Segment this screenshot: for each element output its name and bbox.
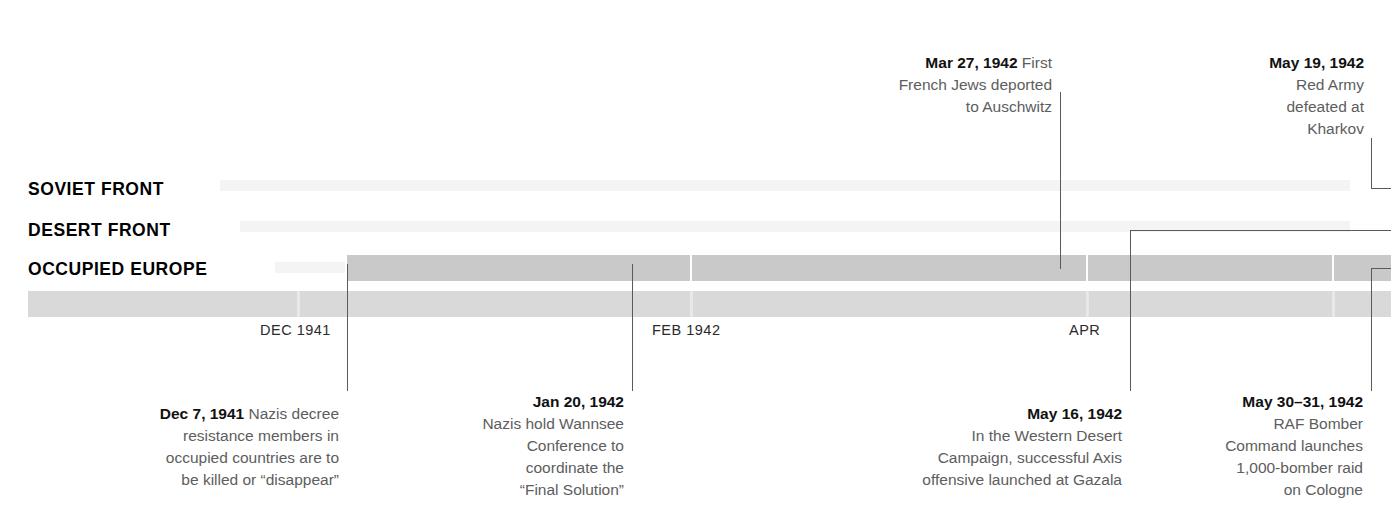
leader-line-dec-7-1941 xyxy=(347,264,348,391)
leader-line-desert-front-horizontal xyxy=(1130,230,1391,231)
annotation-text: Red Army defeated at Kharkov xyxy=(1286,76,1364,137)
annotation-date: Jan 20, 1942 xyxy=(533,393,624,410)
annotation-date: May 19, 1942 xyxy=(1269,54,1364,71)
annotation-text: Nazis hold Wannsee Conference to coordin… xyxy=(482,415,624,498)
annotation-text: In the Western Desert Campaign, successf… xyxy=(922,427,1122,488)
leader-line-mar-27-1942 xyxy=(1060,92,1061,269)
annotation-date: May 30–31, 1942 xyxy=(1242,393,1363,410)
row-label-occupied-europe: OCCUPIED EUROPE xyxy=(28,259,207,280)
axis-band-divider xyxy=(690,291,693,317)
annotation-date: May 16, 1942 xyxy=(1027,405,1122,422)
axis-tick-dec-1941: DEC 1941 xyxy=(260,322,331,338)
annotation-may-30-31-1942: May 30–31, 1942 RAF Bomber Command launc… xyxy=(1180,369,1363,501)
band-segment-divider xyxy=(690,255,692,281)
annotation-mar-27-1942: Mar 27, 1942 First French Jews deported … xyxy=(830,30,1052,118)
band-segment-divider xyxy=(1332,255,1334,281)
annotation-date: Mar 27, 1942 xyxy=(925,54,1017,71)
leader-line-may-30-31-1942 xyxy=(1371,268,1372,391)
axis-band-divider xyxy=(297,291,300,317)
leader-line-may-30-31-1942-horizontal xyxy=(1371,268,1391,269)
annotation-text: RAF Bomber Command launches 1,000-bomber… xyxy=(1225,415,1363,498)
timeline-figure: SOVIET FRONT DESERT FRONT OCCUPIED EUROP… xyxy=(0,0,1391,515)
leader-line-may-19-1942-horizontal xyxy=(1371,188,1391,189)
ghost-stroke xyxy=(275,262,345,273)
annotation-date: Dec 7, 1941 xyxy=(160,405,244,422)
axis-tick-apr-1942: APR xyxy=(1069,322,1100,338)
axis-band xyxy=(28,291,1391,317)
annotation-may-19-1942: May 19, 1942 Red Army defeated at Kharko… xyxy=(1170,30,1364,140)
band-segment-divider xyxy=(1086,255,1088,281)
axis-band-divider xyxy=(1332,291,1335,317)
leader-line-jan-20-1942 xyxy=(632,264,633,391)
row-label-desert-front: DESERT FRONT xyxy=(28,220,171,241)
ghost-stroke xyxy=(220,180,1350,191)
axis-tick-feb-1942: FEB 1942 xyxy=(652,322,721,338)
annotation-may-16-1942: May 16, 1942 In the Western Desert Campa… xyxy=(860,381,1122,491)
leader-line-may-19-1942-vertical xyxy=(1371,138,1372,188)
annotation-jan-20-1942: Jan 20, 1942 Nazis hold Wannsee Conferen… xyxy=(400,369,624,501)
annotation-dec-7-1941: Dec 7, 1941 Nazis decree resistance memb… xyxy=(100,381,339,491)
leader-line-may-16-1942 xyxy=(1130,230,1131,391)
band-occupied-europe xyxy=(347,255,1391,281)
axis-band-divider xyxy=(1086,291,1089,317)
row-label-soviet-front: SOVIET FRONT xyxy=(28,179,164,200)
